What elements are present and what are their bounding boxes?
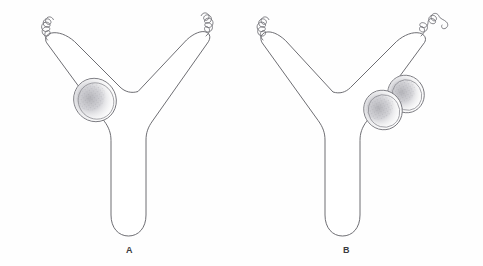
cell-body-outline-b bbox=[261, 32, 426, 236]
panel-b-cell bbox=[257, 13, 448, 236]
figure-container: A B bbox=[0, 0, 483, 266]
flagellum-icon-b-right bbox=[420, 13, 448, 36]
panel-a-cell bbox=[42, 13, 213, 236]
figure-drawing bbox=[0, 0, 483, 266]
cell-body-outline-a bbox=[46, 32, 210, 236]
panel-label-b: B bbox=[343, 246, 350, 255]
panel-label-a: A bbox=[126, 246, 133, 255]
